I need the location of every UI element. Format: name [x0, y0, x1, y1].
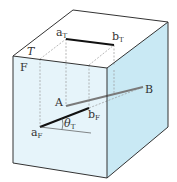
- box-projection-figure: T F aT bT A B bF aF θT: [0, 0, 177, 182]
- label-B: B: [145, 83, 153, 96]
- label-A: A: [54, 96, 64, 109]
- label-front-plane: F: [20, 61, 28, 74]
